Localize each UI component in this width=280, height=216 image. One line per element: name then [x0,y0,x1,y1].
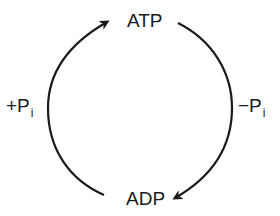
left-arc-arrow [47,87,104,188]
phosphate-symbol: P [249,95,262,116]
add-phosphate-label: +Pi [6,96,33,115]
minus-sign: − [238,95,249,116]
atp-label: ATP [127,11,163,30]
adp-label: ADP [126,189,165,208]
left-cycle-arrow [49,22,104,156]
remove-phosphate-label: −Pi [238,96,265,115]
left-arc-adp-to-atp [48,22,107,195]
right-arc-atp-to-adp [175,23,232,198]
plus-sign: + [6,95,17,116]
phosphate-symbol: P [17,95,30,116]
atp-text: ATP [127,10,163,31]
adp-text: ADP [126,188,165,209]
